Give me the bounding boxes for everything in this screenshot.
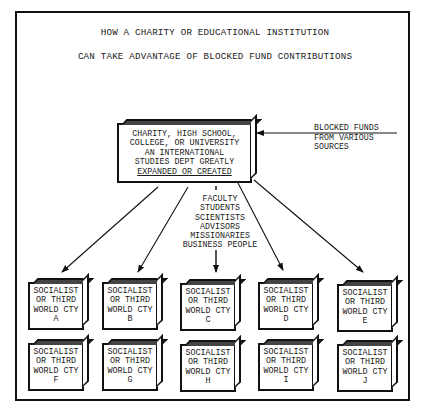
- central-institution-box: CHARITY, HIGH SCHOOL, COLLEGE, OR UNIVER…: [117, 123, 252, 183]
- participants-list: FACULTY STUDENTS SCIENTISTS ADVISORS MIS…: [150, 194, 290, 250]
- participant: BUSINESS PEOPLE: [150, 240, 290, 249]
- participant: ADVISORS: [150, 222, 290, 231]
- country-box-e: SOCIALIST OR THIRD WORLD CTY E: [337, 284, 393, 332]
- country-box-j: SOCIALIST OR THIRD WORLD CTY J: [337, 344, 393, 392]
- central-line: COLLEGE, OR UNIVERSITY: [119, 138, 250, 147]
- country-id: B: [104, 315, 156, 324]
- country-box-i: SOCIALIST OR THIRD WORLD CTY I: [258, 343, 314, 391]
- country-box-h: SOCIALIST OR THIRD WORLD CTY H: [180, 344, 236, 392]
- country-box-c: SOCIALIST OR THIRD WORLD CTY C: [180, 283, 236, 331]
- country-id: A: [30, 315, 82, 324]
- country-id: I: [260, 376, 312, 385]
- country-id: G: [104, 376, 156, 385]
- country-box-a: SOCIALIST OR THIRD WORLD CTY A: [28, 282, 84, 330]
- country-id: J: [339, 377, 391, 386]
- country-id: E: [339, 317, 391, 326]
- participant: FACULTY: [150, 194, 290, 203]
- participant: SCIENTISTS: [150, 213, 290, 222]
- central-line: EXPANDED OR CREATED: [119, 167, 250, 176]
- country-id: H: [182, 377, 234, 386]
- central-line: AN INTERNATIONAL: [119, 148, 250, 157]
- participant: STUDENTS: [150, 203, 290, 212]
- source-line: SOURCES: [314, 142, 379, 152]
- source-line: FROM VARIOUS: [314, 133, 379, 143]
- central-line: STUDIES DEPT GREATLY: [119, 157, 250, 166]
- country-box-f: SOCIALIST OR THIRD WORLD CTY F: [28, 343, 84, 391]
- country-id: C: [182, 316, 234, 325]
- country-id: F: [30, 376, 82, 385]
- country-box-g: SOCIALIST OR THIRD WORLD CTY G: [102, 343, 158, 391]
- arrow-to-a: [62, 187, 158, 272]
- country-box-d: SOCIALIST OR THIRD WORLD CTY D: [258, 282, 314, 330]
- source-line: BLOCKED FUNDS: [314, 123, 379, 133]
- country-box-b: SOCIALIST OR THIRD WORLD CTY B: [102, 282, 158, 330]
- participant: MISSIONARIES: [150, 231, 290, 240]
- country-id: D: [260, 315, 312, 324]
- central-line: CHARITY, HIGH SCHOOL,: [119, 129, 250, 138]
- blocked-funds-label: BLOCKED FUNDS FROM VARIOUS SOURCES: [314, 123, 379, 152]
